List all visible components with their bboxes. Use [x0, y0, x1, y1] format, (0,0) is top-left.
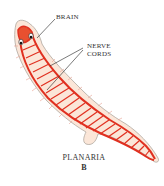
- brain-label: BRAIN: [56, 13, 79, 21]
- caption-panel: B: [54, 163, 114, 172]
- nerve-cords-leader-line-1: [50, 48, 83, 66]
- nerve-cords-label-line1: NERVE: [87, 42, 111, 50]
- nerve-cords-label: NERVE CORDS: [87, 42, 111, 58]
- brain-leader-line: [37, 19, 55, 38]
- nerve-cords-label-line2: CORDS: [87, 50, 111, 58]
- caption-title: PLANARIA: [54, 153, 114, 162]
